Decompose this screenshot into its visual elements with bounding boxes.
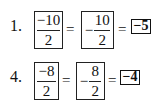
equals-sign: = (108, 73, 116, 88)
middle-fraction-box: − 10 2 (81, 11, 114, 49)
left-fraction-box: −8 2 (34, 62, 59, 100)
answer-box: −5 (131, 19, 151, 34)
left-fraction: −8 2 (35, 63, 58, 99)
fraction-bar (37, 30, 60, 31)
fraction-bar (37, 81, 56, 82)
numerator: 8 (91, 64, 99, 79)
problem-number: 1. (10, 18, 22, 34)
equals-sign: = (66, 22, 74, 37)
numerator: 10 (95, 13, 110, 28)
problem-number: 4. (10, 69, 22, 85)
denominator: 2 (43, 84, 51, 99)
problem-1: 1. −10 2 = − 10 2 = −5 (0, 0, 165, 52)
middle-fraction: − 10 2 (82, 12, 113, 48)
numerator: −10 (37, 13, 60, 28)
left-fraction-box: −10 2 (34, 11, 63, 49)
middle-fraction-box: − 8 2 (76, 62, 105, 100)
left-fraction: −10 2 (35, 12, 62, 48)
answer-box: −4 (120, 70, 140, 85)
equals-sign: = (118, 22, 126, 37)
equals-sign: = (62, 73, 70, 88)
numerator: −8 (39, 64, 55, 79)
negative-sign: − (80, 73, 88, 90)
problem-4: 4. −8 2 = − 8 2 = −4 (0, 52, 165, 104)
negative-sign: − (85, 22, 93, 39)
denominator: 2 (45, 33, 53, 48)
denominator: 2 (98, 33, 106, 48)
fraction-bar (94, 30, 110, 31)
fraction-bar (89, 81, 101, 82)
middle-fraction: − 8 2 (77, 63, 104, 99)
denominator: 2 (91, 84, 99, 99)
